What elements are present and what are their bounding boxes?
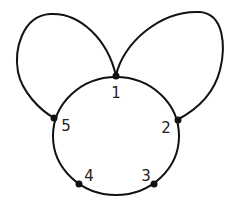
node-label-4: 4 [84,167,94,185]
node-label-1: 1 [111,84,121,102]
node-3 [151,181,158,188]
node-2 [175,117,182,124]
node-label-2: 2 [161,119,171,137]
graph-diagram: 1 2 3 4 5 [0,0,240,210]
node-1 [113,73,120,80]
node-label-3: 3 [141,167,151,185]
node-label-5: 5 [61,117,71,135]
node-5 [51,115,58,122]
node-4 [76,181,83,188]
edge-1-5-loop [17,14,116,118]
